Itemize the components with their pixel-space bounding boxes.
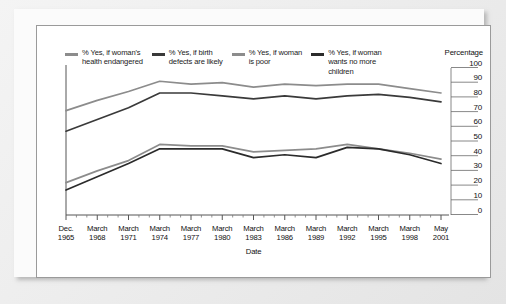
- x-tick-label-0: Dec. 1965: [58, 224, 74, 243]
- y-tick-label-3: 70: [460, 102, 482, 111]
- x-tick-label-5: March 1980: [212, 224, 232, 243]
- x-tick-label-4: March 1977: [181, 224, 201, 243]
- x-tick-label-10: March 1995: [368, 224, 388, 243]
- y-tick-label-2: 80: [460, 87, 482, 96]
- y-tick-label-8: 20: [460, 176, 482, 185]
- y-tick-label-0: 100: [460, 58, 482, 67]
- x-tick-label-3: March 1974: [150, 224, 170, 243]
- series-line-1: [66, 93, 441, 131]
- x-axis-title: Date: [246, 247, 261, 256]
- x-tick-label-6: March 1983: [243, 224, 263, 243]
- y-tick-label-4: 60: [460, 117, 482, 126]
- chart-frame: % Yes, if woman's health endangered% Yes…: [36, 25, 491, 278]
- x-tick-label-12: May 2001: [433, 224, 449, 243]
- x-tick-label-9: March 1992: [337, 224, 357, 243]
- x-tick-label-2: March 1971: [118, 224, 138, 243]
- y-tick-label-7: 30: [460, 161, 482, 170]
- x-tick-label-11: March 1998: [400, 224, 420, 243]
- figure-mat: % Yes, if woman's health endangered% Yes…: [14, 9, 484, 277]
- series-line-3: [66, 147, 441, 190]
- y-tick-label-10: 0: [460, 205, 482, 214]
- x-tick-label-1: March 1968: [87, 224, 107, 243]
- series-line-0: [66, 81, 441, 110]
- y-tick-label-9: 10: [460, 190, 482, 199]
- y-tick-label-1: 90: [460, 73, 482, 82]
- screenshot-canvas: % Yes, if woman's health endangered% Yes…: [0, 0, 506, 304]
- x-tick-label-7: March 1986: [275, 224, 295, 243]
- y-tick-label-6: 40: [460, 146, 482, 155]
- y-tick-label-5: 50: [460, 132, 482, 141]
- x-tick-label-8: March 1989: [306, 224, 326, 243]
